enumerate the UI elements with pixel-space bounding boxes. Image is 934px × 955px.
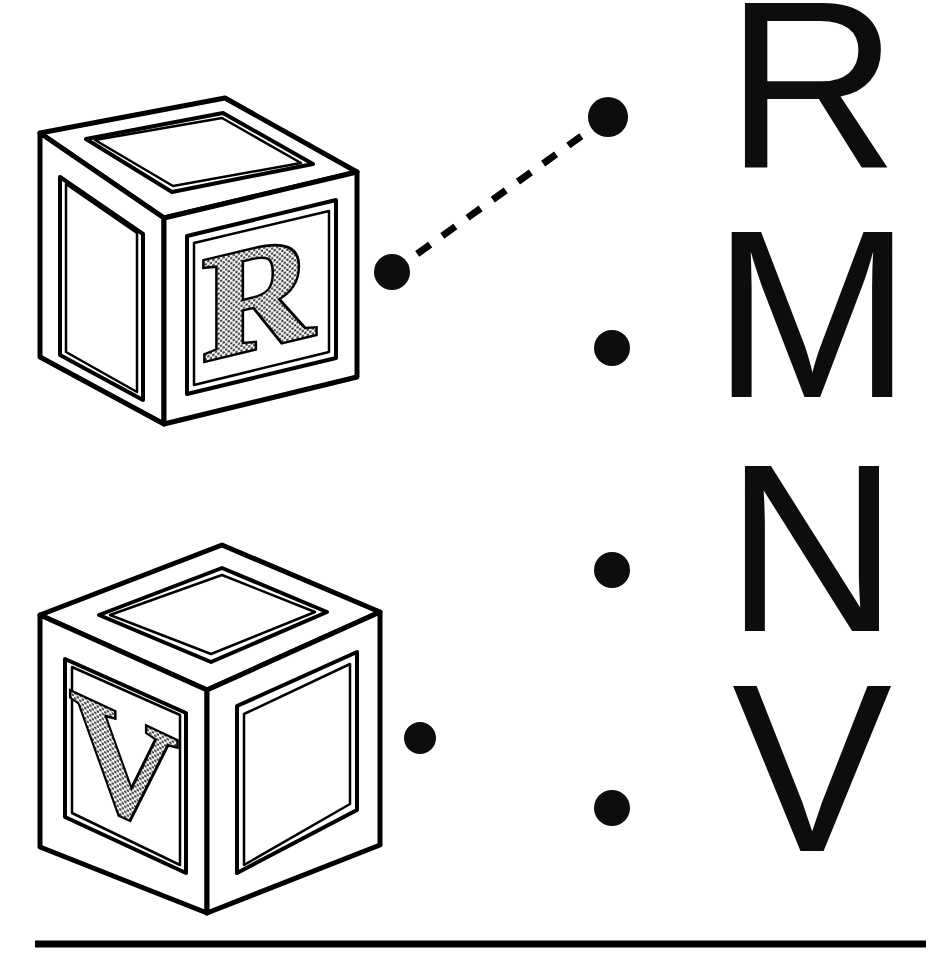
right-dot-letter-m[interactable] bbox=[594, 330, 630, 366]
letter-option-n[interactable]: N bbox=[690, 428, 934, 668]
letter-option-m[interactable]: M bbox=[690, 194, 934, 434]
left-dot-block-v[interactable] bbox=[404, 722, 436, 754]
left-dot-block-r[interactable] bbox=[374, 254, 410, 290]
right-dot-letter-r[interactable] bbox=[588, 97, 628, 137]
right-dot-letter-n[interactable] bbox=[594, 552, 630, 588]
right-dot-letter-v[interactable] bbox=[594, 790, 630, 826]
block-r-letter: R bbox=[202, 198, 315, 394]
letter-option-v[interactable]: V bbox=[690, 648, 934, 888]
block-r-letter-glyph: R bbox=[202, 198, 315, 394]
block-r: R bbox=[40, 98, 357, 424]
letter-column: R M N V bbox=[690, 0, 934, 920]
block-v: V bbox=[40, 545, 380, 913]
letter-option-r[interactable]: R bbox=[690, 0, 934, 204]
worksheet-page: R V bbox=[0, 0, 934, 955]
connector-line-r[interactable] bbox=[392, 117, 608, 272]
